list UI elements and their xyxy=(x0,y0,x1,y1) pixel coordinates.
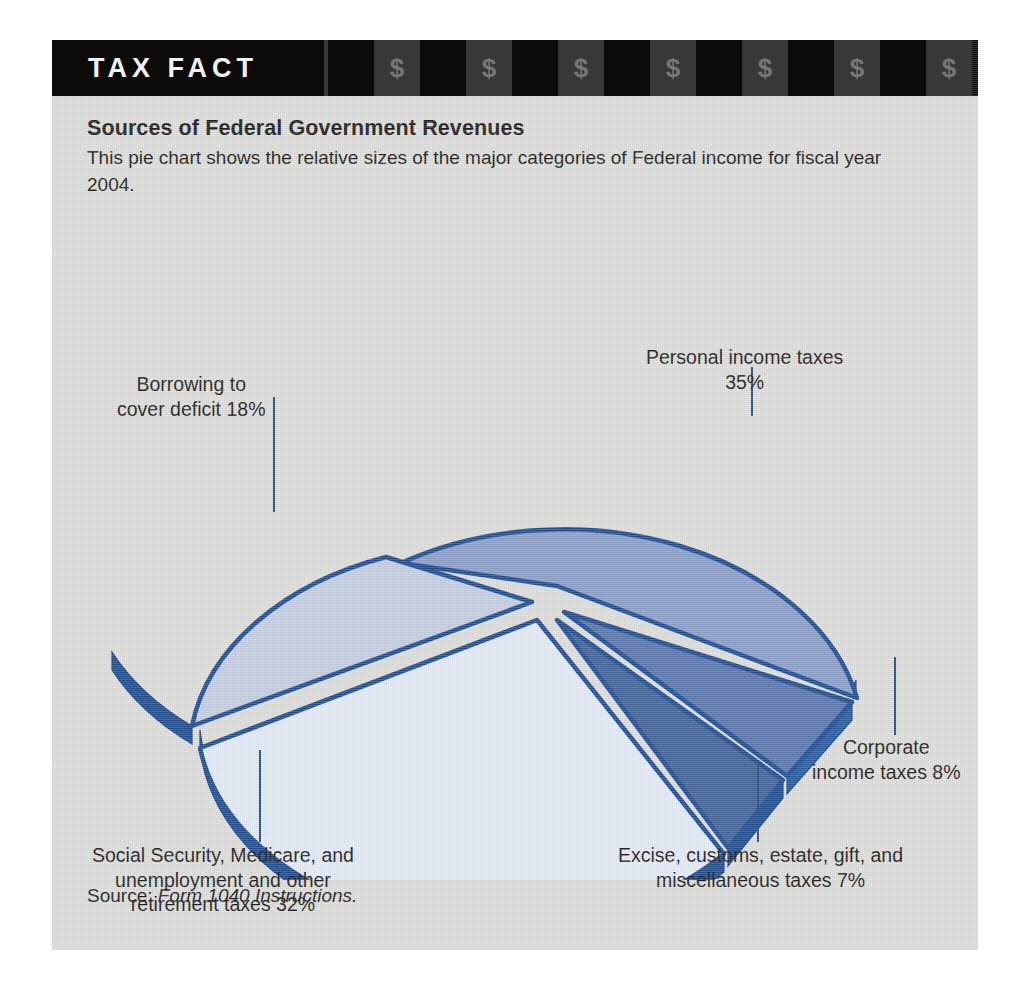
currency-block xyxy=(512,40,558,96)
page-root: $$$$$$$$$$ TAX FACT Sources of Federal G… xyxy=(0,0,1020,995)
slice-depth-borrowing xyxy=(112,652,192,744)
tax-fact-header: $$$$$$$$$$ TAX FACT xyxy=(52,40,978,96)
currency-block xyxy=(880,40,926,96)
dollar-icon: $ xyxy=(650,53,696,84)
currency-block xyxy=(604,40,650,96)
currency-block: $ xyxy=(466,40,512,96)
callout-line: Borrowing to xyxy=(117,372,266,397)
currency-block: $ xyxy=(834,40,880,96)
dollar-icon: $ xyxy=(742,53,788,84)
source-note: Source: Form 1040 Instructions. xyxy=(87,885,357,907)
callout-line: Personal income taxes xyxy=(646,345,843,370)
source-reference: Form 1040 Instructions. xyxy=(158,885,358,906)
currency-block: $ xyxy=(374,40,420,96)
intro-block: Sources of Federal Government Revenues T… xyxy=(87,116,942,199)
currency-block xyxy=(788,40,834,96)
dollar-icon: $ xyxy=(834,53,880,84)
header-title: TAX FACT xyxy=(88,40,258,96)
callout-line: income taxes 8% xyxy=(812,760,961,785)
callout-corporate-income-taxes: Corporate income taxes 8% xyxy=(812,735,961,784)
chart-title: Sources of Federal Government Revenues xyxy=(87,116,942,141)
tax-fact-card: $$$$$$$$$$ TAX FACT Sources of Federal G… xyxy=(52,40,978,950)
callout-line: Excise, customs, estate, gift, and xyxy=(618,843,903,868)
callout-borrowing-deficit: Borrowing to cover deficit 18% xyxy=(117,372,266,421)
currency-block xyxy=(328,40,374,96)
callout-line: Corporate xyxy=(812,735,961,760)
dollar-icon: $ xyxy=(926,53,972,84)
currency-block xyxy=(420,40,466,96)
callout-line: miscellaneous taxes 7% xyxy=(618,868,903,893)
callout-personal-income-taxes: Personal income taxes 35% xyxy=(646,345,843,394)
callout-excise-misc-taxes: Excise, customs, estate, gift, and misce… xyxy=(618,843,903,892)
currency-block xyxy=(696,40,742,96)
currency-block: $ xyxy=(558,40,604,96)
chart-description: This pie chart shows the relative sizes … xyxy=(87,145,907,199)
dollar-icon: $ xyxy=(374,53,420,84)
currency-block: $ xyxy=(742,40,788,96)
callout-line: Social Security, Medicare, and xyxy=(92,843,354,868)
dollar-icon: $ xyxy=(466,53,512,84)
currency-block: $ xyxy=(650,40,696,96)
currency-block: $ xyxy=(926,40,972,96)
source-prefix: Source: xyxy=(87,885,158,906)
callout-line: cover deficit 18% xyxy=(117,397,266,422)
dollar-icon: $ xyxy=(558,53,604,84)
callout-line: 35% xyxy=(646,370,843,395)
